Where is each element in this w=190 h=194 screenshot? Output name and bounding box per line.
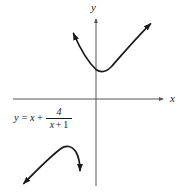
denominator-variable: x <box>50 119 55 130</box>
equation-linear-term: x <box>30 113 35 124</box>
fraction-numerator: 4 <box>53 107 64 118</box>
denominator-operator: + <box>56 119 62 130</box>
x-axis-label: x <box>170 93 175 104</box>
y-axis-label: y <box>91 2 96 13</box>
plot-canvas <box>0 0 190 194</box>
equation-fraction: 4 x+1 <box>46 107 72 130</box>
curve-left-branch <box>24 146 80 183</box>
denominator-constant: 1 <box>63 119 68 130</box>
equation-plus-sign: + <box>37 113 43 124</box>
curve-right-branch <box>74 24 151 72</box>
fraction-denominator: x+1 <box>48 119 71 130</box>
equation-equals-sign: = <box>21 113 27 124</box>
equation-annotation: y = x + 4 x+1 <box>14 107 72 130</box>
equation-lhs: y <box>14 113 19 124</box>
graph-figure: x y y = x + 4 x+1 <box>0 0 190 194</box>
